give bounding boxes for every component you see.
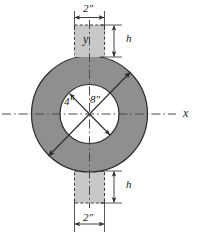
diagram-canvas bbox=[0, 0, 198, 240]
engineering-diagram: 2" 2" h h 4" 8" x y bbox=[0, 0, 198, 240]
label-outer-radius: 8" bbox=[90, 94, 100, 105]
label-height-bottom: h bbox=[126, 179, 132, 190]
label-inner-radius: 4" bbox=[64, 96, 74, 107]
label-height-top: h bbox=[126, 33, 132, 44]
label-axis-y: y bbox=[83, 33, 88, 45]
label-axis-x: x bbox=[183, 107, 188, 119]
label-width-bottom: 2" bbox=[83, 212, 93, 223]
label-width-top: 2" bbox=[83, 3, 93, 14]
